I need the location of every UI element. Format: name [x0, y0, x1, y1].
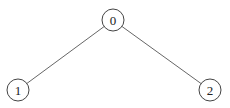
tree-diagram: 012 [0, 0, 230, 108]
edges-group [27, 26, 201, 83]
node-1: 1 [7, 79, 29, 101]
nodes-group: 012 [7, 9, 221, 101]
node-2: 2 [199, 79, 221, 101]
edge-0-2 [122, 26, 201, 83]
edge-0-1 [27, 27, 104, 84]
node-label: 0 [110, 13, 117, 28]
node-label: 2 [207, 83, 214, 98]
node-0: 0 [102, 9, 124, 31]
node-label: 1 [15, 83, 22, 98]
